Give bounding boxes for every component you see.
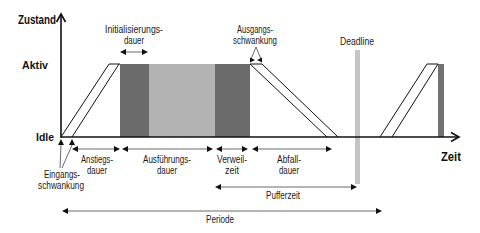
phase-rise-label-2: dauer	[87, 165, 108, 176]
phase-fall-label-2: dauer	[279, 165, 300, 176]
input-jitter-label-2: schwankung	[38, 180, 84, 191]
buffer-time-label: Pufferzeit	[266, 190, 300, 201]
output-jitter-label-1: Ausgangs-	[237, 24, 273, 35]
init-duration-label-2: dauer	[124, 35, 145, 46]
init-duration-label-1: Initialisierungs-	[105, 24, 163, 35]
init-duration-arrow	[120, 49, 148, 55]
phase-dwell-label-2: zeit	[225, 165, 239, 176]
output-jitter-pointer	[250, 47, 262, 63]
deadline-label: Deadline	[340, 36, 374, 47]
phase-dwell-label-1: Verweil-	[217, 154, 247, 165]
input-jitter-pointer	[58, 139, 75, 168]
y-axis-title: Zustand	[18, 12, 56, 27]
phase-fall-label-1: Abfall-	[277, 154, 301, 165]
output-jitter-label-2: schwankung	[233, 35, 277, 46]
dwell-block	[215, 64, 250, 137]
level-label-idle: Idle	[36, 132, 54, 143]
phase-exec-label-1: Ausführungs-	[143, 154, 191, 165]
next-period-block	[438, 64, 444, 137]
input-jitter-label-1: Eingangs-	[44, 169, 80, 180]
level-label-aktiv: Aktiv	[22, 60, 48, 71]
y-axis	[57, 14, 66, 138]
period-label: Periode	[206, 214, 234, 225]
x-axis-title: Zeit	[441, 149, 462, 164]
rising-edge	[61, 64, 120, 137]
phase-dimension-row	[72, 146, 332, 152]
timing-diagram: Zustand Aktiv Idle Zeit Deadline Initial…	[0, 0, 480, 233]
execution-block	[149, 64, 215, 137]
deadline-bar	[355, 50, 360, 184]
phase-exec-label-2: dauer	[157, 165, 178, 176]
phase-rise-label-1: Anstiegs-	[81, 154, 113, 165]
falling-edge	[250, 64, 338, 137]
initialisation-block	[120, 64, 149, 137]
next-rising-edge	[380, 64, 438, 137]
